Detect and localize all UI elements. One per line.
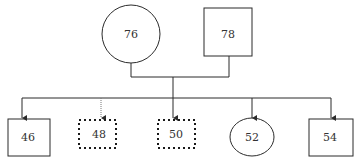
child-node-52: 52 [230,118,274,156]
node-label: 48 [92,128,106,141]
node-label: 50 [169,128,183,141]
node-label: 76 [124,28,138,41]
node-label: 54 [323,131,337,144]
child-arrows [22,98,331,118]
node-label: 52 [245,131,259,144]
pedigree-diagram: 76 78 46 48 50 52 54 [0,0,358,166]
parent-node-78: 78 [204,8,252,56]
child-node-54: 54 [309,119,353,156]
child-node-46: 46 [8,119,50,156]
parent-node-76: 76 [102,5,160,63]
child-node-50: 50 [158,120,195,148]
node-label: 78 [221,28,235,41]
child-node-48: 48 [79,120,116,148]
node-label: 46 [21,131,35,144]
marriage-connector [22,56,331,98]
